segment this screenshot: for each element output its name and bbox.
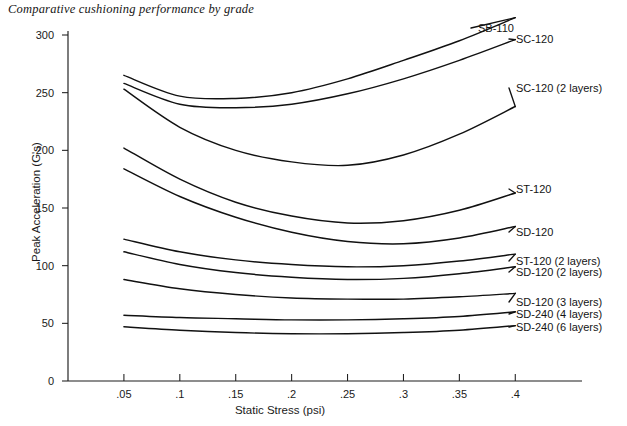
series-leader-line (509, 39, 515, 40)
series-curve (124, 280, 515, 300)
leader-lines-group (471, 18, 515, 327)
x-tick-label: .1 (175, 388, 184, 400)
series-curve (124, 312, 515, 320)
series-curve (124, 18, 515, 99)
series-label: SC-120 (516, 33, 553, 45)
series-label: SC-120 (2 layers) (516, 82, 602, 94)
curves-group (124, 18, 515, 334)
series-label: SD-240 (6 layers) (516, 321, 602, 333)
x-tick-label: .2 (287, 388, 296, 400)
y-tick-label: 50 (8, 317, 54, 329)
x-tick-label: .35 (452, 388, 467, 400)
y-tick-label: 300 (8, 29, 54, 41)
series-leader-line (509, 189, 515, 193)
series-label: ST-120 (516, 183, 551, 195)
y-tick-label: 150 (8, 202, 54, 214)
x-tick-label: .15 (228, 388, 243, 400)
series-leader-line (509, 88, 515, 107)
chart-root: Comparative cushioning performance by gr… (0, 0, 627, 426)
plot-area (0, 0, 627, 426)
series-curve (124, 326, 515, 334)
series-label: SB-110 (478, 22, 514, 34)
series-curve (124, 89, 515, 165)
y-tick-label: 200 (8, 144, 54, 156)
y-tick-label: 0 (8, 375, 54, 387)
series-leader-line (509, 293, 515, 302)
x-tick-label: .05 (116, 388, 131, 400)
x-tick-label: .25 (340, 388, 355, 400)
series-curve (124, 40, 515, 108)
series-curve (124, 148, 515, 223)
series-label: SD-120 (516, 226, 553, 238)
x-tick-label: .3 (399, 388, 408, 400)
series-curve (124, 239, 515, 267)
series-label: SD-120 (3 layers) (516, 296, 602, 308)
y-tick-label: 100 (8, 260, 54, 272)
series-label: SD-120 (2 layers) (516, 266, 602, 278)
series-label: SD-240 (4 layers) (516, 308, 602, 320)
x-axis-title: Static Stress (psi) (0, 404, 560, 416)
x-tick-label: .4 (511, 388, 520, 400)
y-tick-label: 250 (8, 87, 54, 99)
